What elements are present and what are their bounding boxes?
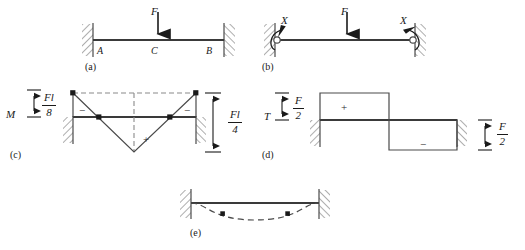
panel-caption-d: (d) [262, 150, 274, 160]
node-dot-zero-right-c [167, 114, 172, 119]
moment-mid-value: Fl 4 [228, 109, 242, 135]
shear-left-numerator: F [293, 95, 304, 109]
moment-end-value: Fl 8 [42, 92, 56, 118]
inflection-point-left-e [220, 211, 225, 216]
support-label-b: B [206, 46, 212, 56]
load-label-f-b: F [341, 6, 348, 17]
fixed-support-right-e [319, 189, 330, 219]
figure-root: F A C B (a) X F X (b) M Fl 8 Fl 4 − + − … [0, 0, 525, 250]
fixed-support-left-c [63, 116, 73, 144]
panel-caption-e: (e) [190, 228, 201, 238]
dimension-moment-end [27, 90, 41, 117]
moment-symbol-label: M [6, 109, 15, 120]
shear-left-denominator: 2 [293, 109, 304, 122]
shear-right-denominator: 2 [497, 135, 508, 148]
moment-end-numerator: Fl [42, 92, 56, 106]
shear-symbol-label: T [264, 111, 270, 122]
shear-left-value: F 2 [293, 95, 304, 121]
sign-negative-right-c: − [184, 105, 190, 116]
fixed-support-left-a [82, 23, 93, 57]
fixed-support-left-e [180, 189, 191, 219]
support-label-a: A [97, 46, 103, 56]
deflection-curve-e [191, 203, 319, 220]
fixed-support-right-d [457, 119, 467, 147]
node-dot-top-right-c [193, 90, 198, 95]
node-dot-top-left-c [70, 90, 75, 95]
moment-mid-numerator: Fl [228, 109, 242, 123]
shear-right-value: F 2 [497, 121, 508, 147]
fixed-support-left-d [310, 119, 320, 147]
redundant-moment-label-left: X [281, 15, 288, 26]
fixed-support-right-c [196, 116, 206, 144]
pin-support-left-b [274, 37, 280, 43]
pin-support-right-b [410, 37, 416, 43]
panel-caption-a: (a) [85, 62, 96, 72]
fixed-support-right-a [224, 23, 235, 57]
panel-caption-c: (c) [10, 150, 21, 160]
inflection-point-right-e [285, 211, 290, 216]
redundant-moment-label-right: X [400, 15, 407, 26]
moment-end-denominator: 8 [42, 106, 56, 119]
shear-right-numerator: F [497, 121, 508, 135]
sign-positive-mid-c: + [143, 134, 149, 145]
node-dot-zero-left-c [96, 114, 101, 119]
midpoint-label-c: C [151, 46, 158, 56]
panel-caption-b: (b) [262, 62, 274, 72]
dimension-moment-mid [205, 93, 221, 152]
panel-d-shear-diagram [275, 93, 492, 150]
sign-negative-right-d: − [420, 139, 426, 150]
panel-c-moment-diagram [27, 90, 221, 152]
load-label-f-a: F [151, 6, 158, 17]
panel-e-deflected-shape [180, 189, 330, 220]
moment-mid-denominator: 4 [228, 123, 242, 136]
sign-negative-left-c: − [79, 105, 85, 116]
dimension-shear-left [275, 93, 289, 120]
shear-block-positive-d [320, 93, 389, 120]
engineering-figure [0, 0, 525, 250]
sign-positive-left-d: + [341, 102, 347, 113]
dimension-shear-right [478, 120, 492, 150]
